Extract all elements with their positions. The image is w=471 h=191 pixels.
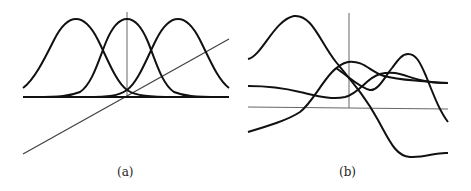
- panel-b: [248, 13, 448, 157]
- panel-b-horizontal-axis: [248, 107, 448, 109]
- caption-panel-a: (a): [117, 165, 134, 179]
- caption-panel-b: (b): [339, 165, 356, 179]
- panel-b-curve-4: [336, 54, 448, 122]
- figure: [0, 0, 471, 191]
- panel-b-curve-1: [248, 16, 448, 157]
- panel-a: [23, 12, 229, 154]
